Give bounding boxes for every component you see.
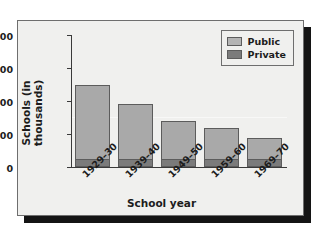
legend-swatch-private-icon [227, 50, 242, 59]
y-tick: 0 [18, 167, 72, 168]
y-tick-label: 100 [0, 129, 13, 140]
legend-label-private: Private [248, 49, 287, 60]
y-tick-mark [67, 68, 72, 69]
figure-wrapper: Schools (in thousands) 0100200300400 192… [0, 0, 323, 246]
y-tick-label: 400 [0, 30, 13, 41]
y-tick: 100 [18, 134, 72, 135]
y-tick: 200 [18, 101, 72, 102]
y-tick: 300 [18, 68, 72, 69]
y-tick-mark [67, 35, 72, 36]
legend-label-public: Public [248, 36, 281, 47]
y-tick-mark [67, 167, 72, 168]
y-tick-mark [67, 101, 72, 102]
y-tick-label: 300 [0, 63, 13, 74]
legend-swatch-public-icon [227, 37, 242, 46]
chart-panel: Schools (in thousands) 0100200300400 192… [17, 20, 304, 216]
x-axis-title: School year [18, 197, 305, 209]
y-tick: 400 [18, 35, 72, 36]
y-tick-label: 200 [0, 96, 13, 107]
legend-item-private: Private [227, 48, 287, 61]
y-tick-label: 0 [6, 162, 13, 173]
y-tick-mark [67, 134, 72, 135]
chart-legend: Public Private [221, 30, 295, 66]
legend-item-public: Public [227, 35, 287, 48]
